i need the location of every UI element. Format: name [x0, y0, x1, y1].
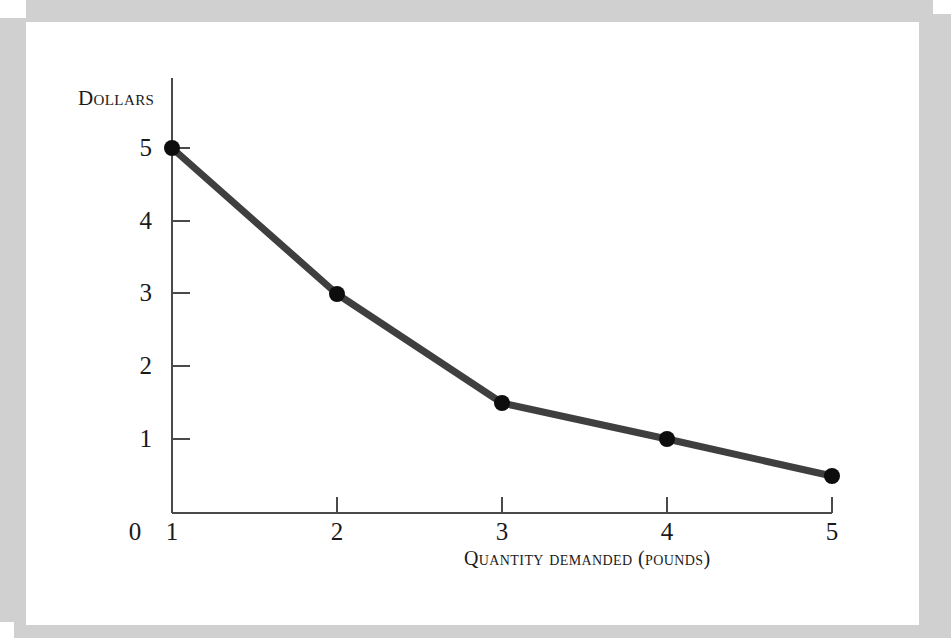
y-tick-label-5: 5	[122, 134, 152, 162]
frame-corner-top-left	[0, 0, 26, 18]
data-point-5	[824, 468, 840, 484]
x-tick-label-1: 1	[157, 518, 187, 546]
frame-border-left	[0, 0, 26, 638]
frame-border-top	[0, 0, 951, 22]
data-point-3	[494, 395, 510, 411]
frame-corner-top-right	[933, 0, 951, 14]
x-tick-label-5: 5	[817, 518, 847, 546]
x-tick-label-2: 2	[322, 518, 352, 546]
y-tick-label-1: 1	[122, 425, 152, 453]
frame-border-right	[919, 0, 951, 638]
y-tick-label-4: 4	[122, 207, 152, 235]
chart-panel: Dollars Quantity demanded (pounds) 5 4 3…	[26, 22, 919, 625]
data-point-4	[659, 431, 675, 447]
x-axis-title: Quantity demanded (pounds)	[464, 547, 711, 570]
x-tick-label-4: 4	[652, 518, 682, 546]
x-tick-label-3: 3	[487, 518, 517, 546]
plot-area: Dollars Quantity demanded (pounds) 5 4 3…	[26, 22, 919, 625]
demand-curve-line	[172, 148, 832, 476]
chart-screenshot: Dollars Quantity demanded (pounds) 5 4 3…	[0, 0, 951, 638]
y-axis-title: Dollars	[78, 86, 154, 111]
data-point-1	[164, 140, 180, 156]
y-tick-label-3: 3	[122, 279, 152, 307]
y-tick-label-2: 2	[122, 352, 152, 380]
origin-label: 0	[120, 518, 150, 546]
frame-corner-bottom-left	[0, 622, 14, 638]
data-point-2	[329, 286, 345, 302]
